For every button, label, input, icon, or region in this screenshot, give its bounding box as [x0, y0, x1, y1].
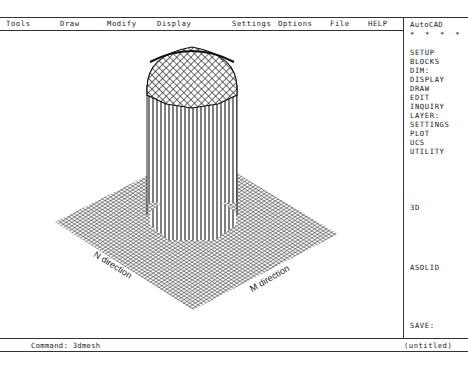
screen-menu-title[interactable]: AutoCAD — [410, 20, 443, 29]
screen-menu-item-plot[interactable]: PLOT — [410, 129, 430, 138]
mesh-drawing: N direction M direction — [0, 31, 403, 338]
screen-menu-item-inquiry[interactable]: INQUIRY — [410, 102, 445, 111]
screen-menu-item-dim[interactable]: DIM: — [410, 66, 430, 75]
screen-menu-item-utility[interactable]: UTILITY — [410, 147, 445, 156]
cylinder-base-opening — [150, 198, 236, 240]
screen-menu-item-save[interactable]: SAVE: — [410, 321, 435, 330]
screen-menu-item-settings[interactable]: SETTINGS — [410, 120, 449, 129]
menu-display[interactable]: Display — [157, 20, 192, 28]
screen-menu-stars[interactable]: * * * * — [410, 30, 463, 39]
screen-menu-item-setup[interactable]: SETUP — [410, 48, 435, 57]
command-line-bottom-border — [0, 351, 468, 352]
cylinder-dome-cap — [147, 47, 237, 108]
menu-help[interactable]: HELP — [368, 20, 388, 28]
menu-options[interactable]: Options — [278, 20, 313, 28]
screen-menu: AutoCAD * * * * SETUP BLOCKS DIM: DISPLA… — [404, 18, 468, 338]
menu-draw[interactable]: Draw — [60, 20, 80, 28]
screen-menu-item-3d[interactable]: 3D — [410, 203, 420, 212]
menu-tools[interactable]: Tools — [6, 20, 31, 28]
menu-file[interactable]: File — [330, 20, 350, 28]
screen-menu-item-blocks[interactable]: BLOCKS — [410, 57, 440, 66]
menubar: Tools Draw Modify Display Settings Optio… — [0, 18, 403, 30]
screen-menu-item-display[interactable]: DISPLAY — [410, 75, 445, 84]
screen-menu-item-layer[interactable]: LAYER: — [410, 111, 440, 120]
drawing-name: (untitled) — [404, 341, 452, 350]
screen-menu-item-draw[interactable]: DRAW — [410, 84, 430, 93]
screen-menu-item-edit[interactable]: EDIT — [410, 93, 430, 102]
drawing-area[interactable]: N direction M direction — [0, 31, 403, 338]
menu-modify[interactable]: Modify — [107, 20, 137, 28]
screen-menu-item-asolid[interactable]: ASOLID — [410, 263, 440, 272]
menu-settings[interactable]: Settings — [232, 20, 271, 28]
screen-menu-item-ucs[interactable]: UCS — [410, 138, 425, 147]
command-prompt[interactable]: Command: 3dmesh — [31, 341, 100, 350]
command-line[interactable]: Command: 3dmesh (untitled) — [0, 339, 468, 351]
